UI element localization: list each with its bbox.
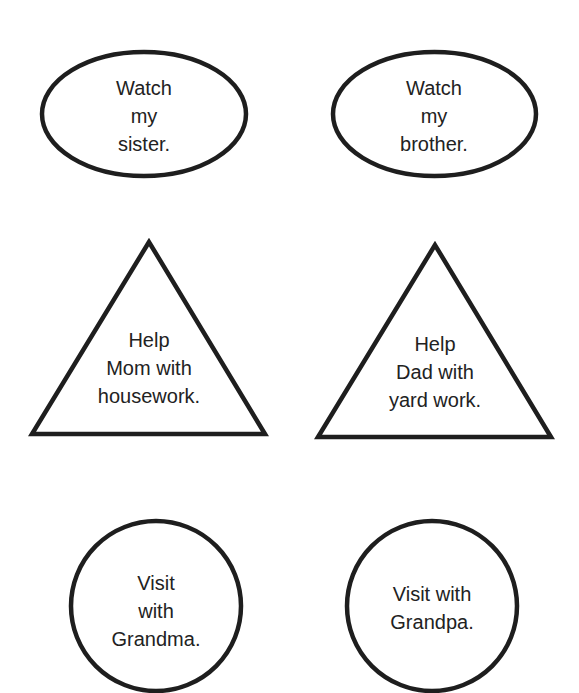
label-line: my [334,102,534,130]
label-line: Visit [56,569,256,597]
label-line: my [44,102,244,130]
label-line: yard work. [335,386,535,414]
label-line: Dad with [335,358,535,386]
label-line: sister. [44,130,244,158]
label-line: Watch [334,74,534,102]
label-line: housework. [49,382,249,410]
label-watch-brother: Watch my brother. [334,74,534,158]
label-watch-sister: Watch my sister. [44,74,244,158]
label-help-dad: Help Dad with yard work. [335,330,535,414]
label-line: Visit with [332,580,532,608]
label-line: Help [49,326,249,354]
label-help-mom: Help Mom with housework. [49,326,249,410]
label-line: Help [335,330,535,358]
label-visit-grandma: Visit with Grandma. [56,569,256,653]
label-visit-grandpa: Visit with Grandpa. [332,580,532,636]
label-line: Grandma. [56,625,256,653]
label-line: Grandpa. [332,608,532,636]
label-line: Watch [44,74,244,102]
label-line: Mom with [49,354,249,382]
label-line: brother. [334,130,534,158]
label-line: with [56,597,256,625]
